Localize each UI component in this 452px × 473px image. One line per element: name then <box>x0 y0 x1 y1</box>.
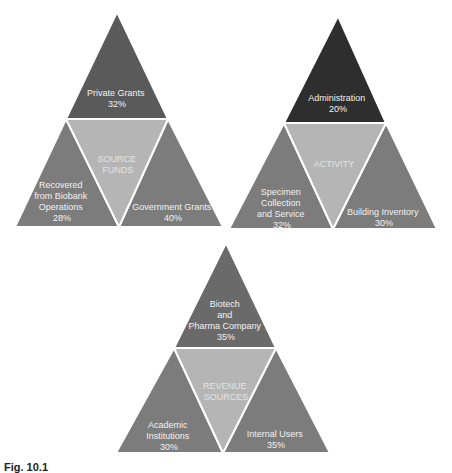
pyramid-revenue-sources: Biotech and Pharma Company 35% Academic … <box>116 243 330 453</box>
pyramid-source-funds: Private Grants 32% Recovered from Bioban… <box>15 12 223 227</box>
figure-caption: Fig. 10.1 <box>4 461 48 473</box>
pyramid-activity: Administration 20% Specimen Collection a… <box>229 16 437 230</box>
center-title-activity: ACTIVITY <box>314 159 355 169</box>
center-title-revenue-sources: REVENUE SOURCES <box>203 381 249 402</box>
center-title-source-funds: SOURCE FUNDS <box>97 154 138 175</box>
